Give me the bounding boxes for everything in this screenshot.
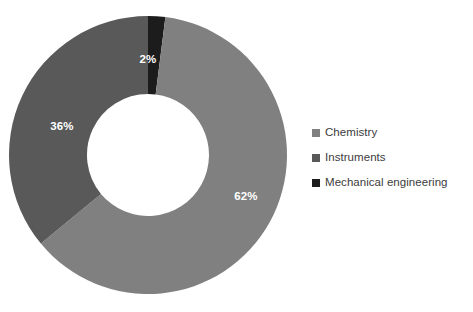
donut-slice-label: 2% [140, 53, 157, 65]
donut-slice[interactable] [9, 16, 148, 244]
legend-item-chemistry[interactable]: Chemistry [312, 120, 470, 145]
legend-item-label: Instruments [325, 145, 386, 170]
donut-slice-label: 62% [234, 190, 257, 202]
legend-item-mechanical-engineering[interactable]: Mechanical engineering [312, 170, 470, 195]
legend-swatch-icon [312, 154, 320, 162]
donut-slice-label: 36% [50, 120, 73, 132]
chart-legend: Chemistry Instruments Mechanical enginee… [312, 120, 470, 195]
legend-item-instruments[interactable]: Instruments [312, 145, 470, 170]
legend-item-label: Mechanical engineering [325, 170, 448, 195]
legend-swatch-icon [312, 179, 320, 187]
legend-item-label: Chemistry [325, 120, 377, 145]
legend-swatch-icon [312, 129, 320, 137]
donut-chart: 2%62%36% Chemistry Instruments Mechanica… [0, 0, 473, 312]
